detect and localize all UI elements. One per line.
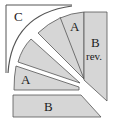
- piece-b-rev: B rev.: [84, 12, 107, 101]
- label-a-top: A: [70, 19, 80, 34]
- label-b-rev-1: B: [91, 35, 100, 50]
- label-b-bottom: B: [44, 99, 53, 114]
- pattern-diagram: C A A B rev. B: [0, 0, 114, 125]
- label-b-rev-2: rev.: [86, 50, 102, 62]
- piece-b-bottom: B: [13, 95, 101, 117]
- label-a-left: A: [21, 72, 31, 87]
- label-c: C: [14, 9, 23, 24]
